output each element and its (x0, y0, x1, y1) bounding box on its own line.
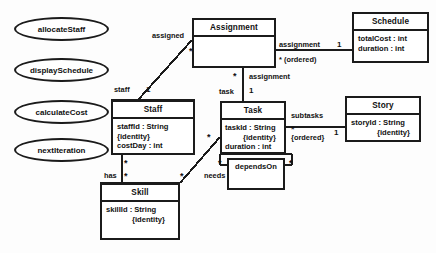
class-attribute-constraint: {identity} (351, 128, 415, 138)
class-attribute: duration : int (358, 44, 423, 54)
association-box-label: dependsOn (229, 160, 283, 171)
use-case-calculate-cost[interactable]: calculateCost (14, 100, 109, 124)
class-box-assignment[interactable]: Assignment (192, 18, 276, 68)
assoc-label-needs: needs (204, 171, 225, 180)
assoc-mult-needs-star-task: * (207, 134, 211, 140)
class-attribute: storyId : String (351, 118, 415, 128)
class-attribute: staffId : String (117, 122, 189, 132)
class-box-skill[interactable]: Skill skillId : String {identity} (100, 183, 180, 240)
class-attributes-staff: staffId : String {identity} costDay : in… (113, 119, 193, 153)
assoc-label-assigned: assigned (152, 31, 184, 40)
use-case-label: nextIteration (37, 146, 85, 155)
assoc-mult-needs-star-skill: * (180, 173, 184, 179)
class-attribute: costDay : int (117, 141, 189, 151)
class-attributes-skill: skillId : String {identity} (102, 202, 178, 226)
class-box-task[interactable]: Task taskId : String {identity} duration… (220, 101, 286, 154)
uml-class-diagram: allocateStaff displaySchedule calculateC… (0, 0, 436, 253)
assoc-label-staff-role: staff (114, 85, 130, 94)
assoc-mult-assignment-star: * (233, 73, 237, 79)
assoc-mult-schedule-one: 1 (337, 40, 341, 49)
class-name-task: Task (222, 103, 284, 120)
use-case-label: displaySchedule (30, 66, 93, 75)
class-name-skill: Skill (102, 185, 178, 202)
assoc-mult-task-one: 1 (249, 86, 253, 95)
assoc-label-has: has (104, 171, 117, 180)
class-attributes-assignment (194, 37, 274, 42)
use-case-display-schedule[interactable]: displaySchedule (14, 58, 109, 82)
class-attributes-task: taskId : String {identity} duration : in… (222, 120, 284, 154)
class-attribute: totalCost : int (358, 34, 423, 44)
class-attribute: taskId : String (225, 123, 280, 133)
assoc-mult-staff-one: 1 (146, 85, 150, 94)
assoc-label-task-role: task (219, 87, 234, 96)
class-name-schedule: Schedule (354, 14, 427, 31)
class-name-assignment: Assignment (194, 20, 274, 37)
use-case-label: allocateStaff (38, 25, 86, 34)
assoc-label-subtasks-ordered: {ordered} (291, 133, 324, 142)
assoc-mult-subtasks-star: * (291, 126, 295, 132)
class-attribute: skillId : String (106, 205, 174, 215)
use-case-allocate-staff[interactable]: allocateStaff (14, 17, 109, 41)
class-name-staff: Staff (113, 102, 193, 119)
class-attributes-schedule: totalCost : int duration : int (354, 31, 427, 55)
class-attribute-constraint: {identity} (225, 133, 280, 143)
assoc-mult-has-star-top: * (124, 160, 128, 166)
assoc-mult-story-one: 1 (334, 128, 338, 137)
use-case-next-iteration[interactable]: nextIteration (14, 138, 109, 162)
assoc-label-assignment-ordered: * (ordered) (279, 55, 316, 64)
class-attribute: duration : int (225, 142, 280, 152)
assoc-label-subtasks: subtasks (291, 111, 323, 120)
class-box-schedule[interactable]: Schedule totalCost : int duration : int (352, 12, 429, 63)
class-attribute-constraint: {identity} (117, 132, 189, 142)
assoc-label-assignment-mid: assignment (249, 72, 290, 81)
class-attribute-constraint: {identity} (106, 215, 174, 225)
class-box-staff[interactable]: Staff staffId : String {identity} costDa… (111, 100, 195, 155)
class-name-story: Story (347, 98, 419, 115)
assoc-mult-depends-star-left: * (218, 160, 222, 166)
assoc-mult-depends-star-right: * (289, 160, 293, 166)
association-box-depends-on[interactable]: dependsOn (227, 158, 285, 190)
use-case-label: calculateCost (35, 108, 87, 117)
assoc-label-assignment-top: assignment (279, 40, 320, 49)
class-box-story[interactable]: Story storyId : String {identity} (345, 96, 421, 142)
assoc-mult-has-star-bottom: * (124, 173, 128, 179)
assoc-mult-assigned-star: * (189, 48, 193, 54)
class-attributes-story: storyId : String {identity} (347, 115, 419, 139)
